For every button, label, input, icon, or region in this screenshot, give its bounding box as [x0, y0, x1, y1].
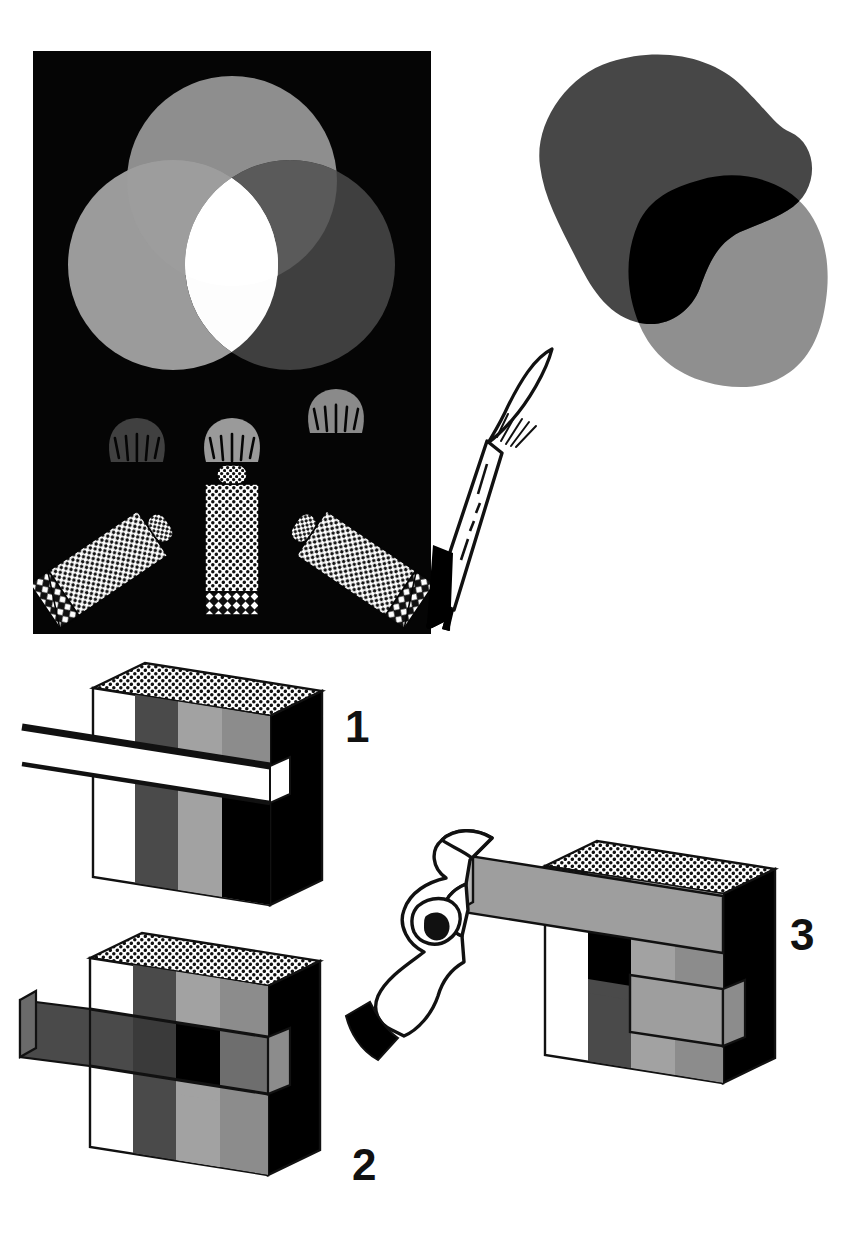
- tube-body-middle: [205, 484, 259, 592]
- block-3-label: 3: [790, 910, 814, 959]
- block-3-side-face: [723, 869, 775, 1083]
- additive-light-panel: [0, 51, 503, 634]
- block-1-label: 1: [345, 702, 369, 751]
- block-2-lower-light: [176, 1094, 220, 1167]
- block-2-band-mid: [220, 1030, 268, 1094]
- illustration-root: 1 2: [0, 0, 859, 1251]
- color-mixing-figure: 1 2: [0, 0, 859, 1251]
- block-2-band-dark: [133, 1016, 176, 1080]
- tube-crimp-middle: [205, 592, 259, 615]
- block-1-dark-region: [222, 795, 270, 905]
- stripe-dark-gray: [135, 694, 178, 890]
- stripe-light-gray: [178, 701, 222, 897]
- block-2-label: 2: [352, 1140, 376, 1189]
- paint-tube-middle: [204, 418, 260, 615]
- tube-nozzle-middle: [217, 465, 247, 484]
- block-2-band-darkest: [176, 1023, 220, 1087]
